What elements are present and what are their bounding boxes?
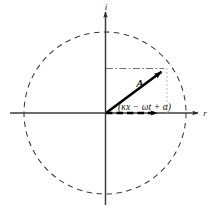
phase-angle-label: (κx − ωt + α) (118, 102, 171, 113)
phasor-diagram-figure: i r A (κx − ωt + α) (0, 0, 216, 218)
imaginary-axis-label: i (105, 2, 108, 12)
amplitude-label: A (135, 77, 143, 89)
real-axis-label: r (203, 108, 207, 118)
phasor-diagram-canvas: i r A (κx − ωt + α) (0, 0, 216, 218)
